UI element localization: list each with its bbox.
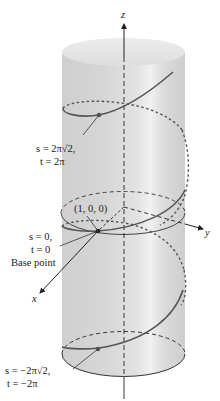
bottom-point-s-label: s = −2π√2, [5,365,50,376]
helix-svg: z y x s = 2π√2, t = 2π (1, 0, 0) s = 0, … [0,0,220,401]
top-point-t-label: t = 2π [40,156,65,167]
base-point-caption: Base point [11,257,56,268]
bottom-point-t-label: t = −2π [7,378,38,389]
base-point-s-label: s = 0, [29,231,52,242]
x-axis-label: x [31,293,37,304]
base-point-t-label: t = 0 [31,244,50,255]
z-axis-label: z [120,9,125,20]
y-axis-label: y [204,227,210,238]
helix-diagram: z y x s = 2π√2, t = 2π (1, 0, 0) s = 0, … [0,0,220,401]
base-point-coords-label: (1, 0, 0) [74,203,108,215]
top-point-s-label: s = 2π√2, [36,143,75,154]
